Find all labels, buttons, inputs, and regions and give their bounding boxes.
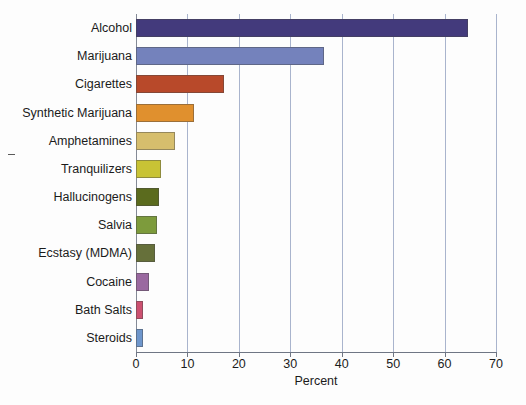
bar-row (136, 268, 496, 296)
bar-cocaine (136, 273, 149, 291)
category-label-amphetamines: Amphetamines (0, 127, 132, 155)
bar-row (136, 14, 496, 42)
category-label-tranquilizers: Tranquilizers (0, 155, 132, 183)
bar-row (136, 42, 496, 70)
x-axis-line (136, 352, 497, 353)
bar-hallucinogens (136, 188, 159, 206)
category-label-synthetic-marijuana: Synthetic Marijuana (0, 99, 132, 127)
tick-label-30: 30 (270, 357, 310, 371)
bar-row (136, 239, 496, 267)
category-label-ecstasy-mdma: Ecstasy (MDMA) (0, 239, 132, 267)
bar-salvia (136, 216, 157, 234)
bar-row (136, 155, 496, 183)
bar-row (136, 324, 496, 352)
bar-row (136, 127, 496, 155)
x-axis-title: Percent (136, 374, 496, 388)
category-label-salvia: Salvia (0, 211, 132, 239)
bar-tranquilizers (136, 160, 161, 178)
bar-row (136, 296, 496, 324)
bar-marijuana (136, 47, 324, 65)
gridline-70 (496, 14, 497, 352)
bar-row (136, 99, 496, 127)
tick-label-10: 10 (167, 357, 207, 371)
tick-label-60: 60 (425, 357, 465, 371)
category-label-cocaine: Cocaine (0, 268, 132, 296)
category-label-bath-salts: Bath Salts (0, 296, 132, 324)
bar-ecstasy-mdma (136, 244, 155, 262)
bar-series (136, 14, 496, 352)
tick-label-20: 20 (219, 357, 259, 371)
category-label-cigarettes: Cigarettes (0, 70, 132, 98)
category-label-steroids: Steroids (0, 324, 132, 352)
bar-alcohol (136, 19, 468, 37)
bar-bath-salts (136, 301, 143, 319)
bar-steroids (136, 329, 143, 347)
bar-chart: AlcoholMarijuanaCigarettesSynthetic Mari… (0, 0, 526, 405)
bar-synthetic-marijuana (136, 104, 194, 122)
tick-label-50: 50 (373, 357, 413, 371)
category-label-marijuana: Marijuana (0, 42, 132, 70)
bar-amphetamines (136, 132, 175, 150)
category-label-alcohol: Alcohol (0, 14, 132, 42)
bar-row (136, 70, 496, 98)
tick-label-0: 0 (116, 357, 156, 371)
bar-row (136, 183, 496, 211)
tick-label-40: 40 (322, 357, 362, 371)
tick-label-70: 70 (476, 357, 516, 371)
bar-cigarettes (136, 75, 224, 93)
category-label-hallucinogens: Hallucinogens (0, 183, 132, 211)
bar-row (136, 211, 496, 239)
